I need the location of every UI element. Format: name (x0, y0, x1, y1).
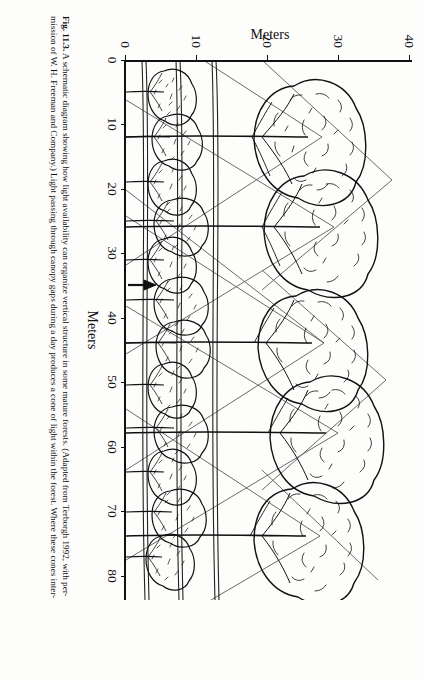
understory-tree (126, 534, 194, 590)
understory-tree (126, 320, 210, 378)
x-tick (121, 382, 126, 383)
x-tick-label: 80 (104, 556, 120, 596)
y-tick-label: 0 (117, 18, 133, 48)
y-tick (409, 55, 410, 60)
y-tick-label: 10 (188, 18, 204, 48)
x-tick-label: 60 (104, 427, 120, 467)
x-tick-label: 50 (104, 362, 120, 402)
plot-area (126, 60, 412, 600)
emergent-trees (126, 80, 384, 600)
x-tick (121, 447, 126, 448)
figure-caption: Fig. 11.3. A schematic diagram showing h… (47, 16, 72, 662)
forest-profile-figure: 0 10 20 30 40 50 60 70 80 0 10 20 30 40 … (88, 14, 418, 614)
figure-number: Fig. 11.3. (61, 16, 71, 51)
x-tick-label: 30 (104, 233, 120, 273)
x-tick-label: 40 (104, 298, 120, 338)
understory-tree (126, 362, 196, 418)
x-axis-title: Meters (84, 60, 100, 600)
x-axis-line (124, 60, 126, 600)
canopy-light-layers (142, 60, 219, 600)
y-tick (125, 55, 126, 60)
emergent-tree (126, 376, 384, 503)
understory-tree (126, 69, 196, 125)
book-page-sheet: 0 10 20 30 40 50 60 70 80 0 10 20 30 40 … (0, 0, 424, 680)
x-tick (121, 318, 126, 319)
y-tick (338, 55, 339, 60)
y-tick-label: 30 (330, 18, 346, 48)
understory-tree (126, 159, 196, 215)
x-tick (121, 189, 126, 190)
emergent-tree (126, 290, 368, 412)
x-tick (121, 253, 126, 254)
understory-tree (126, 114, 202, 170)
x-tick (121, 124, 126, 125)
ground-arrow-annotation (128, 280, 156, 290)
x-tick (121, 60, 126, 61)
emergent-tree (126, 170, 378, 297)
x-tick-label: 20 (104, 169, 120, 209)
x-tick (121, 511, 126, 512)
caption-line-1: Fig. 11.3. A schematic diagram showing h… (60, 16, 72, 662)
y-axis-title: Meters (225, 27, 315, 43)
x-tick-label: 10 (104, 104, 120, 144)
y-tick (267, 55, 268, 60)
x-tick (121, 576, 126, 577)
figure-page: 0 10 20 30 40 50 60 70 80 0 10 20 30 40 … (0, 0, 424, 680)
forest-diagram-svg (126, 60, 412, 600)
understory-tree (126, 449, 196, 505)
understory-trees (126, 69, 210, 590)
understory-tree (126, 489, 206, 547)
caption-line-2: mission of W. H. Freeman and Company.) L… (47, 16, 59, 662)
caption-text-1: A schematic diagram showing how light av… (61, 53, 71, 597)
y-axis-line (126, 60, 412, 62)
y-tick-label: 40 (401, 18, 417, 48)
x-tick-label: 70 (104, 491, 120, 531)
y-tick (196, 55, 197, 60)
